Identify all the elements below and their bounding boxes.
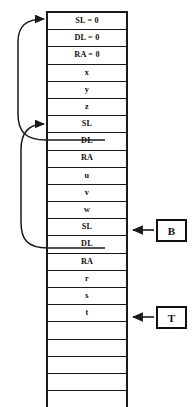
stack-cell-22 [47,391,127,407]
stack-row: t [47,305,127,322]
stack-row: r [47,270,127,287]
stack-cell-14: RA [47,253,127,270]
top-pointer-box: T [156,306,187,329]
stack-cell-9: u [47,167,127,184]
stack-cell-15: r [47,270,127,287]
stack-row: y [47,81,127,98]
stack-cell-2: RA = 0 [47,47,127,64]
stack-row: SL [47,219,127,236]
stack-cell-18 [47,322,127,339]
stack-row: DL [47,236,127,253]
stack-row: RA = 0 [47,47,127,64]
stack-row [47,391,127,407]
stack-row: SL = 0 [47,12,127,30]
stack-row: s [47,288,127,305]
stack-cell-7: DL [47,133,127,150]
stack-row [47,356,127,373]
stack-rows: SL = 0 DL = 0 RA = 0 x y z SL DL RA u v … [47,12,127,407]
stack-cell-16: s [47,288,127,305]
stack-row: DL = 0 [47,30,127,47]
stack-row: RA [47,150,127,167]
top-pointer-label: T [168,312,175,324]
base-pointer-box: B [156,219,187,242]
stack-row: v [47,184,127,201]
stack-cell-1: DL = 0 [47,30,127,47]
stack-row: x [47,64,127,81]
stack-row: DL [47,133,127,150]
stack-cell-4: y [47,81,127,98]
stack-cell-0: SL = 0 [47,12,127,30]
stack-cell-10: v [47,184,127,201]
stack-cell-8: RA [47,150,127,167]
activation-record-stack: SL = 0 DL = 0 RA = 0 x y z SL DL RA u v … [46,11,128,407]
stack-row: z [47,98,127,115]
stack-row: w [47,202,127,219]
stack-cell-12: SL [47,219,127,236]
stack-row: u [47,167,127,184]
stack-row [47,322,127,339]
stack-cell-6: SL [47,116,127,133]
stack-cell-13: DL [47,236,127,253]
stack-cell-3: x [47,64,127,81]
stack-cell-11: w [47,202,127,219]
base-pointer-label: B [168,225,175,237]
stack-cell-20 [47,356,127,373]
stack-row: RA [47,253,127,270]
stack-row [47,339,127,356]
stack-cell-21 [47,373,127,390]
stack-cell-17: t [47,305,127,322]
stack-cell-19 [47,339,127,356]
stack-cell-5: z [47,98,127,115]
stack-row [47,373,127,390]
stack-row: SL [47,116,127,133]
